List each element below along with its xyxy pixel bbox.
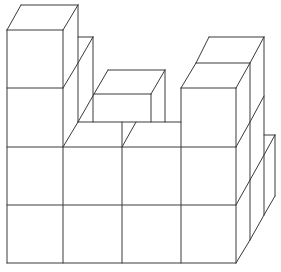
- cube-edge: [151, 70, 165, 94]
- cube-edge: [250, 215, 264, 240]
- cube-drawing: [0, 0, 281, 272]
- cube-edge: [181, 63, 196, 88]
- cube-edge: [122, 122, 136, 147]
- cube-edge: [250, 96, 264, 122]
- cube-edge: [63, 122, 78, 147]
- cube-edge: [264, 196, 275, 215]
- cube-edge: [94, 70, 108, 94]
- cube-edge: [236, 240, 250, 263]
- cube-edge: [250, 155, 264, 180]
- cube-edge: [78, 37, 93, 63]
- cube-edge: [196, 37, 209, 63]
- cube-edge: [63, 5, 78, 30]
- cube-edge: [7, 5, 21, 30]
- cube-edge: [63, 63, 78, 88]
- cube-edge: [236, 180, 250, 205]
- cube-stack-diagram: [0, 0, 281, 272]
- cube-edge: [264, 135, 275, 155]
- cube-edge: [236, 63, 250, 88]
- cube-edge: [250, 37, 264, 63]
- cube-edge: [236, 122, 250, 147]
- cube-edge: [78, 94, 94, 122]
